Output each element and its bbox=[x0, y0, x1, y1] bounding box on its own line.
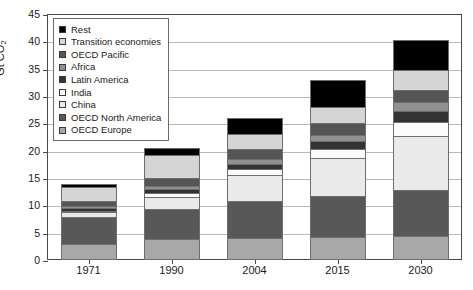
bar-segment bbox=[310, 196, 366, 237]
legend-item[interactable]: Rest bbox=[59, 23, 161, 36]
x-axis-tick-label: 1971 bbox=[76, 264, 100, 276]
legend-item[interactable]: OECD Europe bbox=[59, 124, 161, 137]
bar-segment bbox=[393, 190, 449, 236]
legend-item-label: India bbox=[71, 88, 92, 98]
bar-segment bbox=[393, 122, 449, 136]
legend-swatch-icon bbox=[59, 114, 66, 121]
bar-segment bbox=[61, 187, 117, 201]
bar-segment bbox=[310, 149, 366, 158]
bar-group bbox=[227, 118, 283, 260]
bar-segment bbox=[310, 141, 366, 149]
y-axis-tick-mark bbox=[43, 261, 48, 262]
bar-segment bbox=[227, 175, 283, 201]
legend-swatch-icon bbox=[59, 89, 66, 96]
legend-swatch-icon bbox=[59, 101, 66, 108]
y-axis-tick-label: 35 bbox=[28, 63, 40, 75]
legend-item[interactable]: India bbox=[59, 86, 161, 99]
y-axis-tick-label: 45 bbox=[28, 8, 40, 20]
legend-swatch-icon bbox=[59, 26, 66, 33]
legend-item-label: OECD Pacific bbox=[71, 50, 129, 60]
bar-segment bbox=[227, 134, 283, 148]
legend-swatch-icon bbox=[59, 64, 66, 71]
legend-swatch-icon bbox=[59, 127, 66, 134]
legend-item[interactable]: Africa bbox=[59, 61, 161, 74]
bar-segment bbox=[144, 155, 200, 177]
x-axis-tick-label: 2015 bbox=[325, 264, 349, 276]
bar-segment bbox=[144, 197, 200, 209]
bar-segment bbox=[393, 102, 449, 111]
bar-segment bbox=[227, 201, 283, 238]
legend-item[interactable]: Transition economies bbox=[59, 36, 161, 49]
x-axis-tick-label: 1990 bbox=[159, 264, 183, 276]
bar-group bbox=[393, 40, 449, 260]
y-axis-tick-label: 25 bbox=[28, 117, 40, 129]
bar-segment bbox=[393, 90, 449, 103]
bar-segment bbox=[310, 123, 366, 134]
y-axis-tick-label: 15 bbox=[28, 172, 40, 184]
legend-item-label: China bbox=[71, 100, 96, 110]
legend-item-label: OECD Europe bbox=[71, 125, 132, 135]
bar-segment bbox=[393, 40, 449, 70]
bar-group bbox=[144, 148, 200, 260]
y-axis-tick-label: 5 bbox=[34, 227, 40, 239]
bar-segment bbox=[61, 217, 117, 244]
bar-segment bbox=[227, 238, 283, 260]
bar-segment bbox=[227, 149, 283, 159]
y-axis-tick-labels: 051015202530354045 bbox=[0, 14, 40, 260]
bar-group bbox=[61, 184, 117, 260]
chart-legend: RestTransition economiesOECD PacificAfri… bbox=[53, 18, 169, 141]
legend-item[interactable]: OECD North America bbox=[59, 111, 161, 124]
bar-segment bbox=[144, 178, 200, 186]
legend-item[interactable]: OECD Pacific bbox=[59, 48, 161, 61]
bar-segment bbox=[61, 244, 117, 260]
y-axis-tick-label: 10 bbox=[28, 199, 40, 211]
bar-segment bbox=[144, 148, 200, 155]
bar-segment bbox=[310, 237, 366, 260]
legend-item-label: Africa bbox=[71, 62, 95, 72]
legend-swatch-icon bbox=[59, 76, 66, 83]
y-axis-tick-label: 20 bbox=[28, 145, 40, 157]
x-axis-tick-labels: 19711990200420152030 bbox=[47, 264, 462, 284]
y-axis-tick-label: 40 bbox=[28, 35, 40, 47]
legend-item[interactable]: Latin America bbox=[59, 73, 161, 86]
stacked-bar-chart: Gt CO2 051015202530354045 19711990200420… bbox=[0, 0, 473, 290]
legend-item-label: Transition economies bbox=[71, 37, 161, 47]
bar-segment bbox=[227, 118, 283, 134]
y-axis-tick-label: 30 bbox=[28, 90, 40, 102]
bar-segment bbox=[310, 107, 366, 123]
y-axis-tick-label: 0 bbox=[34, 254, 40, 266]
legend-swatch-icon bbox=[59, 38, 66, 45]
legend-item-label: OECD North America bbox=[71, 113, 161, 123]
bar-segment bbox=[310, 158, 366, 196]
bar-group bbox=[310, 80, 366, 260]
legend-item[interactable]: China bbox=[59, 99, 161, 112]
bar-segment bbox=[393, 136, 449, 190]
bar-segment bbox=[144, 239, 200, 260]
x-axis-tick-label: 2004 bbox=[242, 264, 266, 276]
bar-segment bbox=[393, 70, 449, 90]
bar-segment bbox=[310, 80, 366, 107]
bar-segment bbox=[393, 236, 449, 260]
x-axis-tick-label: 2030 bbox=[408, 264, 432, 276]
legend-swatch-icon bbox=[59, 51, 66, 58]
bar-segment bbox=[393, 111, 449, 122]
legend-item-label: Rest bbox=[71, 25, 91, 35]
legend-item-label: Latin America bbox=[71, 75, 129, 85]
bar-segment bbox=[144, 209, 200, 239]
